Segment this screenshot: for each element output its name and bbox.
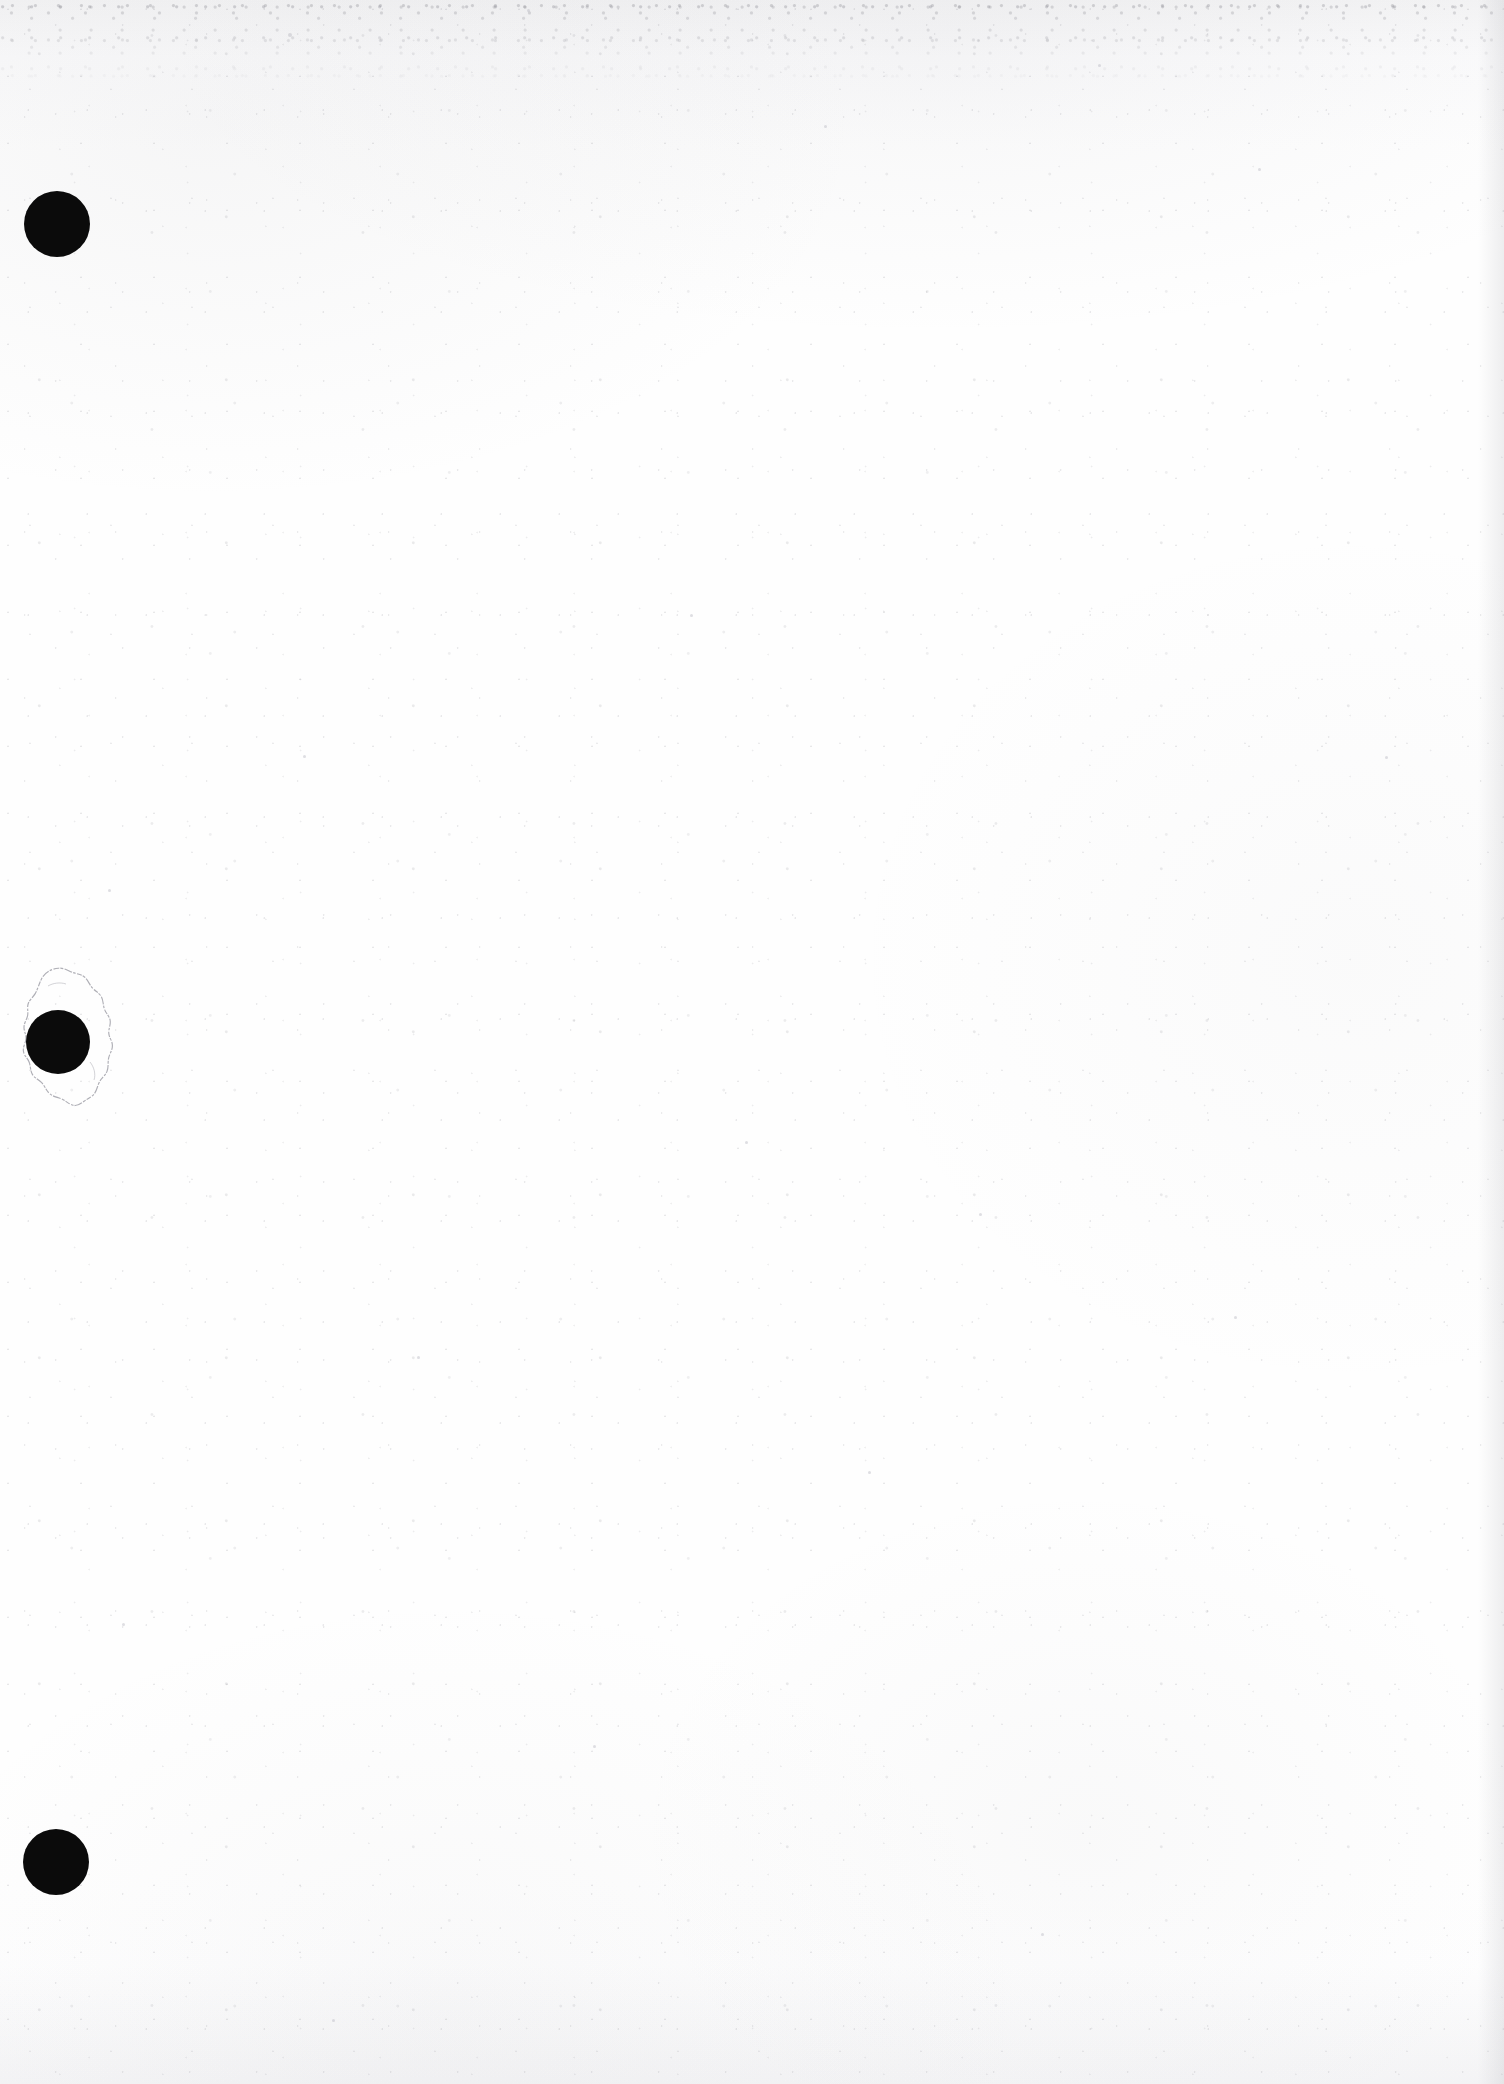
punch-hole-bottom xyxy=(23,1829,89,1895)
dust-speck xyxy=(1385,756,1388,759)
punch-hole-top xyxy=(24,191,90,257)
page-body-content xyxy=(170,150,1384,1924)
dust-speck xyxy=(824,125,827,128)
dust-speck xyxy=(1098,64,1101,67)
bottom-edge-scan-band xyxy=(0,1964,1504,2084)
dust-speck xyxy=(288,33,292,37)
punch-hole-middle xyxy=(26,1010,90,1074)
right-edge-scan-band xyxy=(1478,0,1504,2084)
dust-speck xyxy=(332,2019,335,2022)
dust-speck xyxy=(527,9,530,12)
left-binding-margin xyxy=(0,0,140,2084)
scanned-page xyxy=(0,0,1504,2084)
top-edge-noise-band xyxy=(0,0,1504,90)
dust-speck xyxy=(1041,1933,1044,1936)
